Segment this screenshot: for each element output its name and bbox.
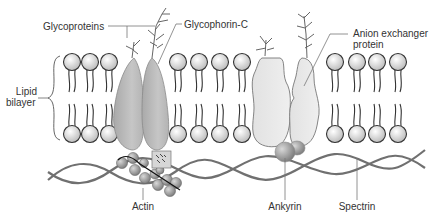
lipid-molecule	[234, 54, 251, 93]
protein-band3-left	[252, 58, 290, 147]
lipid-molecule	[82, 54, 99, 93]
lipid-molecule	[64, 104, 81, 143]
lipid-molecule	[191, 54, 208, 93]
glycoprotein-1	[114, 58, 144, 150]
spectrin-filament	[48, 150, 425, 183]
lipid-molecule	[170, 54, 187, 93]
label-actin: Actin	[123, 201, 163, 212]
label-lipid-line2: bilayer	[6, 97, 35, 108]
lipid-molecule	[327, 54, 344, 93]
lipid-molecule	[191, 104, 208, 143]
glycophorin-c	[142, 58, 169, 150]
lipid-molecule	[101, 54, 118, 93]
label-lipid-line1: Lipid	[8, 86, 37, 97]
lipid-molecule	[390, 104, 407, 143]
lipid-molecule	[327, 104, 344, 143]
lipid-molecule	[64, 54, 81, 93]
lipid-molecule	[349, 104, 366, 143]
protein-4-1-box	[152, 151, 171, 168]
lipid-molecule	[234, 104, 251, 143]
label-glycoproteins: Glycoproteins	[43, 21, 104, 32]
label-anion-exchanger-line2: protein	[353, 39, 384, 50]
lipid-molecule	[82, 104, 99, 143]
lipid-bilayer-bracket	[48, 56, 60, 140]
lipid-molecule	[212, 54, 229, 93]
lipid-molecule	[369, 54, 386, 93]
lipid-molecule	[212, 104, 229, 143]
anion-exchanger-protein	[290, 58, 319, 146]
lipid-upper-leaflet	[64, 54, 407, 93]
label-glycophorin-c: Glycophorin-C	[184, 19, 248, 30]
lipid-molecule	[369, 104, 386, 143]
lipid-molecule	[170, 104, 187, 143]
ankyrin	[275, 141, 305, 162]
label-spectrin: Spectrin	[332, 201, 382, 212]
lipid-molecule	[349, 54, 366, 93]
label-ankyrin: Ankyrin	[260, 201, 310, 212]
lipid-molecule	[390, 54, 407, 93]
label-anion-exchanger-line1: Anion exchanger	[353, 28, 428, 39]
glycoprotein-sugar-chains	[126, 8, 314, 58]
